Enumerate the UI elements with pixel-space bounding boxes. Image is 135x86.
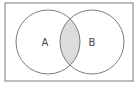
set-a-label: A	[42, 37, 49, 48]
venn-diagram: A B	[0, 0, 135, 86]
set-b-label: B	[89, 37, 96, 48]
